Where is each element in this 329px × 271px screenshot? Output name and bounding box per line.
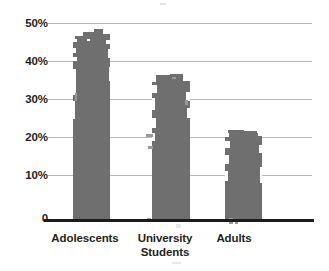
- bar-adolescents: [73, 39, 110, 222]
- bar-edge-notch: [152, 85, 157, 93]
- bar-top-notch: [87, 39, 90, 41]
- gridline-50: [48, 23, 312, 24]
- bar-university-students: [152, 78, 190, 222]
- bar-top-notch: [183, 78, 190, 81]
- scan-speck: [148, 146, 153, 149]
- bar-adults: [225, 133, 262, 222]
- scan-artifact: [172, 262, 181, 264]
- scan-speck: [146, 134, 153, 137]
- y-tick-label-40: 40%: [4, 56, 48, 67]
- y-tick-label-50: 50%: [4, 18, 48, 29]
- x-axis-baseline: [44, 219, 314, 222]
- scan-speck: [172, 77, 176, 79]
- bar-top-notch: [152, 78, 156, 82]
- bar-edge-notch: [225, 141, 230, 148]
- bar-edge-notch: [259, 145, 262, 153]
- bar-edge-notch: [260, 167, 262, 183]
- x-axis-label-university-line1: University: [138, 232, 193, 244]
- bar-top-nib: [242, 131, 257, 135]
- scan-speck: [185, 100, 188, 105]
- bar-top-nib: [156, 75, 170, 80]
- bar-edge-notch: [152, 118, 156, 128]
- y-axis-tick-labels: 50% 40% 30% 20% 10% 0: [0, 0, 48, 271]
- y-tick-label-0: 0: [4, 213, 48, 224]
- bar-edge-notch: [73, 57, 77, 61]
- y-tick-label-30: 30%: [4, 94, 48, 105]
- plot-area: [48, 18, 312, 222]
- bar-top-notch: [258, 133, 262, 136]
- bar-edge-notch: [225, 155, 229, 164]
- scan-artifact: [176, 224, 181, 228]
- bar-edge-notch: [108, 49, 110, 58]
- bar-edge-notch: [152, 98, 155, 110]
- bar-edge-notch: [109, 67, 110, 81]
- bar-top-notch: [106, 40, 110, 44]
- bar-edge-notch: [73, 69, 76, 95]
- y-tick-label-20: 20%: [4, 132, 48, 143]
- x-axis-label-adults: Adults: [206, 231, 262, 245]
- y-tick-label-10: 10%: [4, 170, 48, 181]
- bar-edge-notch: [73, 101, 75, 119]
- scan-speck: [75, 93, 77, 101]
- bar-edge-notch: [73, 48, 76, 53]
- x-axis-label-adults-text: Adults: [216, 232, 251, 244]
- bar-top-notch: [73, 39, 77, 42]
- x-axis-label-university-students: University Students: [130, 231, 200, 259]
- scan-artifact: [160, 3, 166, 5]
- bar-edge-notch: [225, 171, 228, 181]
- x-axis-label-adolescents-text: Adolescents: [51, 232, 118, 244]
- bar-edge-notch: [187, 108, 190, 118]
- x-axis-label-adolescents: Adolescents: [48, 231, 122, 245]
- bar-adults-body: [225, 133, 262, 222]
- bar-adolescents-body: [73, 39, 110, 222]
- x-axis-label-university-line2: Students: [141, 246, 189, 258]
- bar-chart: 50% 40% 30% 20% 10% 0: [0, 0, 329, 271]
- bar-top-notch: [225, 133, 229, 137]
